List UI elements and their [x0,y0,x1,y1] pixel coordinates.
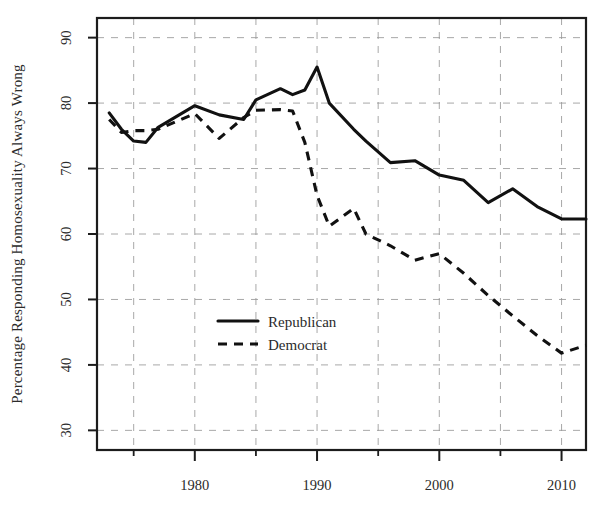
tick-label-y: 90 [58,30,74,45]
legend-label-democrat: Democrat [268,337,328,353]
line-chart: 30405060708090 1980199020002010 Percenta… [0,0,598,507]
tick-label-x: 2010 [547,477,576,493]
tick-label-y: 70 [58,161,74,176]
tick-label-y: 50 [58,292,74,307]
tick-label-x: 1980 [180,477,209,493]
tick-label-x: 1990 [303,477,332,493]
tick-label-y: 60 [58,227,74,242]
legend-label-republican: Republican [268,314,337,330]
tick-label-y: 30 [58,423,74,438]
tick-label-x: 2000 [425,477,454,493]
tick-label-y: 40 [58,358,74,373]
y-axis-title: Percentage Responding Homosexuality Alwa… [9,64,25,404]
tick-label-y: 80 [58,96,74,111]
